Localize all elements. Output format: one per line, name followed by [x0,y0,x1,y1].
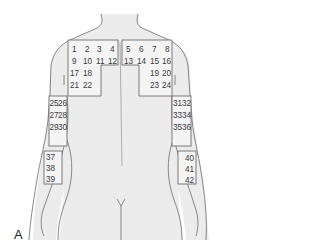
region-19: 19 [150,69,160,78]
region-18: 18 [83,69,93,78]
region-10: 10 [83,57,93,66]
region-3: 3 [97,45,102,54]
region-5: 5 [126,45,131,54]
region-16: 16 [162,57,172,66]
region-9: 9 [72,57,77,66]
region-23: 23 [150,81,160,90]
region-17: 17 [70,69,80,78]
region-22: 22 [83,81,93,90]
region-30: 30 [58,123,68,132]
body-map-figure: 1 2 3 4 9 10 11 12 17 18 21 22 5 6 7 8 1… [0,0,313,252]
region-36: 36 [182,123,192,132]
region-15: 15 [150,57,160,66]
region-37: 37 [46,153,56,162]
region-6: 6 [139,45,144,54]
region-7: 7 [152,45,157,54]
region-28: 28 [58,111,68,120]
region-12: 12 [108,57,118,66]
region-14: 14 [137,57,147,66]
region-39: 39 [46,175,56,184]
region-11: 11 [96,57,105,66]
region-21: 21 [70,81,80,90]
region-41: 41 [185,165,195,174]
region-4: 4 [110,45,115,54]
region-34: 34 [182,111,192,120]
region-1: 1 [72,45,77,54]
region-2: 2 [85,45,90,54]
panel-label: A [14,227,23,242]
region-38: 38 [46,164,56,173]
region-26: 26 [58,99,68,108]
region-24: 24 [162,81,172,90]
region-20: 20 [162,69,172,78]
region-40: 40 [185,154,195,163]
region-42: 42 [185,176,195,185]
region-32: 32 [182,99,192,108]
region-8: 8 [165,45,170,54]
region-13: 13 [124,57,134,66]
